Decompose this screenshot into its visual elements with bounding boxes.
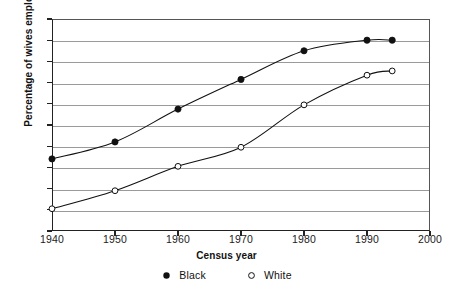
y-axis-title: Percentage of wives employed (23, 0, 34, 148)
y-tick-mark (47, 82, 52, 83)
x-tick-mark (177, 231, 178, 236)
y-tick-mark (47, 209, 52, 210)
gridline (53, 84, 429, 85)
gridline (53, 147, 429, 148)
open-circle-icon (246, 270, 257, 281)
census-wives-employed-line-chart: Percentage of wives employed Census year… (0, 0, 453, 299)
gridline (53, 62, 429, 63)
x-tick-mark (366, 231, 367, 236)
y-tick-mark (47, 167, 52, 168)
y-tick-mark (47, 103, 52, 104)
chart-legend: Black White (0, 269, 453, 281)
x-axis-title: Census year (0, 250, 453, 261)
legend-item-black: Black (161, 269, 206, 281)
plot-area (52, 19, 430, 231)
x-tick-mark (114, 231, 115, 236)
gridline (53, 190, 429, 191)
x-tick-mark (429, 231, 430, 236)
x-tick-label: 1940 (30, 234, 74, 245)
y-tick-mark (47, 40, 52, 41)
y-tick-mark (47, 230, 52, 231)
gridline (53, 168, 429, 169)
y-tick-mark (47, 124, 52, 125)
y-tick-mark (47, 188, 52, 189)
y-tick-mark (47, 61, 52, 62)
legend-label-white: White (264, 269, 292, 281)
gridline (53, 41, 429, 42)
y-tick-mark (47, 146, 52, 147)
y-tick-mark (47, 18, 52, 19)
gridline (53, 211, 429, 212)
filled-circle-icon (161, 270, 172, 281)
x-tick-mark (240, 231, 241, 236)
gridline (53, 126, 429, 127)
legend-label-black: Black (179, 269, 206, 281)
x-tick-mark (303, 231, 304, 236)
gridline (53, 105, 429, 106)
legend-item-white: White (246, 269, 292, 281)
